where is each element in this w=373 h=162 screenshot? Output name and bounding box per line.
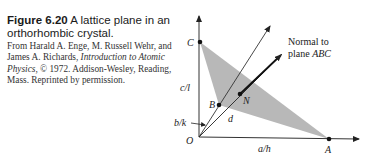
point-n bbox=[238, 92, 243, 97]
point-a bbox=[327, 137, 332, 142]
y-axis bbox=[199, 26, 270, 137]
label-n: N bbox=[242, 95, 251, 106]
label-normal-line1: Normal to bbox=[288, 36, 329, 47]
label-c-over-l: c/l bbox=[180, 82, 190, 93]
label-d: d bbox=[228, 113, 234, 124]
x-axis bbox=[199, 137, 359, 139]
point-b bbox=[217, 103, 222, 108]
label-a: A bbox=[324, 144, 332, 155]
label-a-over-h: a/h bbox=[258, 143, 271, 154]
label-b-over-k: b/k bbox=[174, 117, 187, 128]
lattice-plane-diagram: C B N A O c/l b/k d a/h Normal to plane … bbox=[0, 0, 373, 162]
label-normal-line2: plane ABC bbox=[288, 48, 331, 59]
label-b: B bbox=[209, 99, 215, 110]
bk-pointer bbox=[191, 123, 205, 125]
label-o: O bbox=[186, 135, 193, 146]
point-c bbox=[198, 40, 203, 45]
label-c: C bbox=[187, 37, 194, 48]
